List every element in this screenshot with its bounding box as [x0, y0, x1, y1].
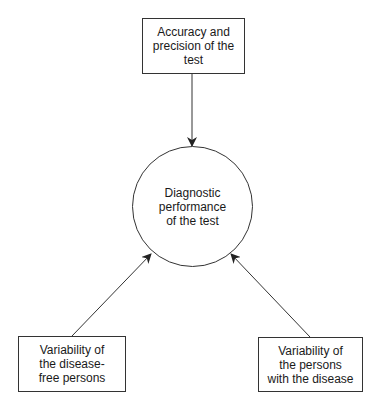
- center-circle: Diagnostic performance of the test: [132, 146, 253, 267]
- top-box-label: Accuracy and precision of the test: [153, 25, 234, 67]
- arrow-bottom-right-to-center: [231, 254, 310, 337]
- bottom-left-box-label: Variability of the disease- free persons: [39, 343, 106, 385]
- bottom-right-box: Variability of the persons with the dise…: [258, 337, 363, 392]
- arrow-bottom-left-to-center: [72, 254, 151, 336]
- bottom-left-box: Variability of the disease- free persons: [18, 336, 126, 392]
- bottom-right-box-label: Variability of the persons with the dise…: [267, 344, 353, 386]
- center-circle-label: Diagnostic performance of the test: [159, 186, 226, 228]
- top-box: Accuracy and precision of the test: [142, 18, 245, 74]
